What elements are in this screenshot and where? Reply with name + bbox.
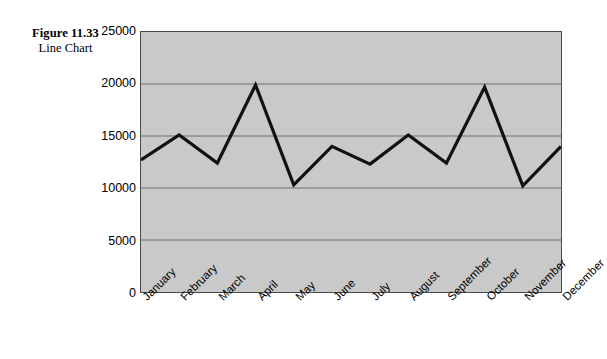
series-line bbox=[141, 85, 561, 186]
data-line bbox=[141, 85, 561, 186]
plot-svg bbox=[141, 32, 561, 292]
y-axis-tick-label: 15000 bbox=[101, 130, 136, 143]
y-axis-tick-label: 0 bbox=[129, 287, 136, 300]
y-axis-tick-label: 5000 bbox=[108, 234, 136, 247]
x-axis: JanuaryFebruaryMarchAprilMayJuneJulyAugu… bbox=[140, 293, 562, 359]
plot-area bbox=[140, 31, 562, 293]
gridlines bbox=[141, 84, 561, 240]
y-axis-tick-label: 10000 bbox=[101, 182, 136, 195]
y-axis-tick-label: 20000 bbox=[101, 77, 136, 90]
y-axis-tick-label: 25000 bbox=[101, 25, 136, 38]
y-axis: 0500010000150002000025000 bbox=[98, 0, 136, 359]
